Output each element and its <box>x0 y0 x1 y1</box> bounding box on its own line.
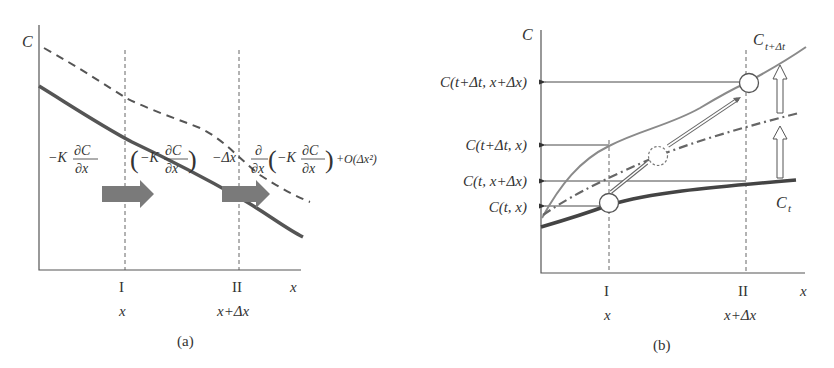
svg-text:−K: −K <box>140 150 159 165</box>
panel-b-up-arrow-upper-icon <box>773 65 787 113</box>
svg-text:): ) <box>188 145 197 174</box>
panel-b-diagonal-arrow-icon <box>611 97 741 192</box>
svg-text:∂C: ∂C <box>165 143 182 158</box>
svg-text:): ) <box>325 145 334 174</box>
panel-a-y-label: C <box>22 33 33 50</box>
svg-text:+O(Δx²): +O(Δx²) <box>336 152 377 166</box>
svg-text:(: ( <box>130 145 139 174</box>
panel-b: C x I x II x+Δx (b) C(t+Δt, x+Δx) C(t+Δt… <box>440 26 807 354</box>
svg-text:∂x: ∂x <box>165 161 179 176</box>
svg-text:∂C: ∂C <box>302 143 319 158</box>
panel-b-section-II-roman: II <box>738 283 748 299</box>
panel-a-x-label: x <box>289 279 297 295</box>
svg-text:−K: −K <box>277 150 296 165</box>
panel-b-curve-Ct <box>541 180 796 227</box>
panel-b-section-II-pos: x+Δx <box>723 307 757 323</box>
panel-b-point-C-tdt-xdx <box>740 74 759 93</box>
svg-text:∂x: ∂x <box>302 161 316 176</box>
panel-a-section-I-roman: I <box>119 279 124 295</box>
panel-b-point-C-t-x <box>600 194 619 213</box>
panel-a-section-II-pos: x+Δx <box>216 303 250 319</box>
panel-b-section-I-pos: x <box>603 307 611 323</box>
svg-text:t+Δt: t+Δt <box>765 40 786 52</box>
panel-a: C x I x II x+Δx (a) −K ∂C ∂x ( −K ∂C ∂x … <box>22 25 377 350</box>
diagram-canvas: C x I x II x+Δx (a) −K ∂C ∂x ( −K ∂C ∂x … <box>0 0 834 368</box>
panel-b-point-intermediate <box>649 147 668 166</box>
panel-a-section-II-roman: II <box>232 279 242 295</box>
panel-b-label-C-t-xdx: C(t, x+Δx) <box>463 173 527 190</box>
panel-b-section-I-roman: I <box>604 283 609 299</box>
panel-a-flux-arrow-out-icon <box>222 180 270 208</box>
svg-text:C: C <box>776 194 787 211</box>
panel-a-caption: (a) <box>177 333 194 350</box>
panel-b-y-label: C <box>522 26 533 43</box>
panel-b-label-C-tdt-x: C(t+Δt, x) <box>466 137 527 154</box>
panel-a-dashed-curve <box>44 48 310 202</box>
panel-b-x-label: x <box>799 283 807 299</box>
panel-a-section-I-pos: x <box>118 303 126 319</box>
panel-b-caption: (b) <box>653 337 671 354</box>
panel-b-curve-label-current: C t <box>776 194 792 214</box>
svg-text:−Δx: −Δx <box>212 150 237 165</box>
panel-b-axes <box>541 30 805 273</box>
panel-a-flux-arrow-in-icon <box>102 180 154 208</box>
panel-b-up-arrow-lower-icon <box>773 126 787 178</box>
panel-b-label-C-tdt-xdx: C(t+Δt, x+Δx) <box>440 74 527 91</box>
svg-text:−K: −K <box>48 150 67 165</box>
svg-text:∂x: ∂x <box>75 161 89 176</box>
panel-b-curve-label-later: C t+Δt <box>753 31 786 52</box>
svg-text:∂C: ∂C <box>74 143 91 158</box>
panel-a-flux-in-expression: −K ∂C ∂x <box>48 143 98 176</box>
svg-text:∂x: ∂x <box>251 161 265 176</box>
svg-text:(: ( <box>268 145 277 174</box>
svg-text:∂: ∂ <box>255 143 262 158</box>
svg-text:t: t <box>788 202 792 214</box>
panel-b-label-C-t-x: C(t, x) <box>489 199 527 216</box>
svg-text:C: C <box>753 31 764 48</box>
